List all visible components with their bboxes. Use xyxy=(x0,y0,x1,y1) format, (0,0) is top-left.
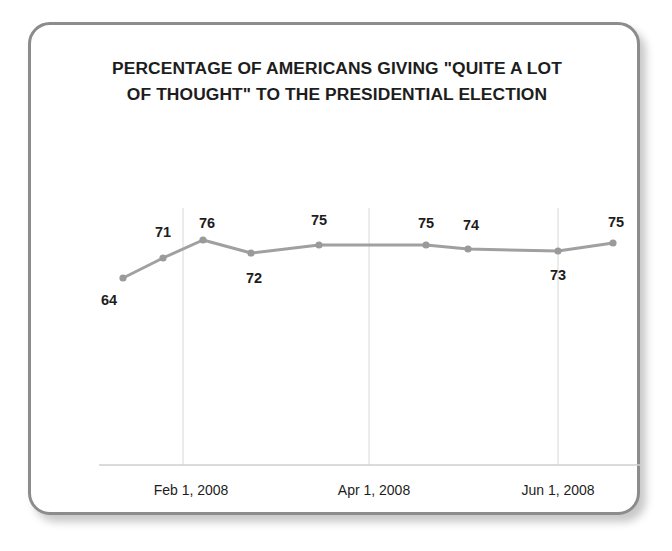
data-point-label: 75 xyxy=(608,214,624,230)
data-point-label: 75 xyxy=(418,215,434,231)
data-point-marker[interactable] xyxy=(464,245,471,252)
data-point-marker[interactable] xyxy=(199,236,206,243)
data-point-marker[interactable] xyxy=(554,247,561,254)
data-series-line xyxy=(123,240,613,278)
data-point-marker[interactable] xyxy=(159,254,166,261)
data-point-marker[interactable] xyxy=(422,241,429,248)
gridlines-group xyxy=(183,208,558,465)
data-point-label: 71 xyxy=(155,224,171,240)
data-point-label: 72 xyxy=(246,270,262,286)
data-point-marker[interactable] xyxy=(119,274,126,281)
data-point-label: 75 xyxy=(311,212,327,228)
plot-area: 647176727575747375 Feb 1, 2008Apr 1, 200… xyxy=(31,25,643,518)
data-point-label: 76 xyxy=(199,215,215,231)
data-point-label: 73 xyxy=(550,267,566,283)
series-polyline xyxy=(123,240,613,278)
x-axis-tick-label: Feb 1, 2008 xyxy=(154,482,229,498)
x-axis-tick-label: Jun 1, 2008 xyxy=(521,482,594,498)
x-axis-tick-label: Apr 1, 2008 xyxy=(338,482,410,498)
chart-card: PERCENTAGE OF AMERICANS GIVING "QUITE A … xyxy=(28,22,640,515)
data-point-marker[interactable] xyxy=(247,249,254,256)
data-point-marker[interactable] xyxy=(609,239,616,246)
data-point-label: 64 xyxy=(101,292,117,308)
data-point-label: 74 xyxy=(463,217,479,233)
data-point-marker[interactable] xyxy=(315,241,322,248)
